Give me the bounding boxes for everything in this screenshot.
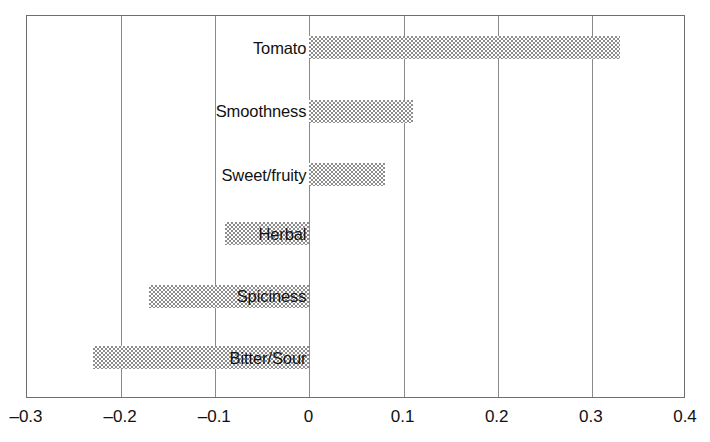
x-tick-label: –0.2 bbox=[104, 408, 137, 425]
gridline bbox=[215, 16, 216, 397]
x-tick-label: 0.2 bbox=[485, 408, 509, 425]
bar-category-label: Herbal bbox=[258, 225, 306, 242]
gridline bbox=[404, 16, 405, 397]
bar bbox=[309, 36, 620, 59]
bar-category-label: Smoothness bbox=[216, 103, 307, 120]
bar-category-label: Spiciness bbox=[237, 288, 307, 305]
plot-area: TomatoSmoothnessSweet/fruityHerbalSpicin… bbox=[26, 15, 685, 398]
bar-chart: TomatoSmoothnessSweet/fruityHerbalSpicin… bbox=[0, 0, 710, 442]
bar bbox=[309, 100, 413, 123]
bar bbox=[309, 163, 384, 186]
bar-category-label: Bitter/Sour bbox=[230, 349, 307, 366]
x-tick-label: –0.3 bbox=[9, 408, 42, 425]
x-tick-label: 0.3 bbox=[579, 408, 603, 425]
x-tick-label: 0 bbox=[304, 408, 313, 425]
x-tick-label: 0.1 bbox=[391, 408, 415, 425]
x-tick-label: –0.1 bbox=[198, 408, 231, 425]
bar-category-label: Sweet/fruity bbox=[221, 166, 306, 183]
gridline bbox=[309, 16, 310, 397]
x-tick-label: 0.4 bbox=[673, 408, 697, 425]
gridline bbox=[592, 16, 593, 397]
bar-category-label: Tomato bbox=[253, 39, 307, 56]
gridline bbox=[121, 16, 122, 397]
gridline bbox=[498, 16, 499, 397]
